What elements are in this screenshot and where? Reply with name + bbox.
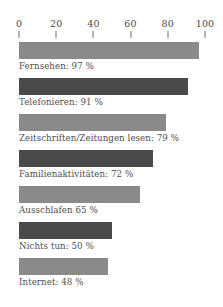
bar-label: Internet: 48 % [19,276,84,288]
bar-label: Fernsehen: 97 % [19,60,94,72]
x-axis-tick-label: 80 [162,18,175,29]
bar [19,258,108,275]
x-axis-tick-label: 40 [87,18,100,29]
bars-area: Fernsehen: 97 %Telefonieren: 91 %Zeitsch… [0,42,223,294]
x-axis-tick-mark [167,31,168,38]
bar-label: Zeitschriften/Zeitungen lesen: 79 % [19,132,179,144]
bar [19,78,188,95]
bar-label: Telefonieren: 91 % [19,96,103,108]
x-axis-tick-label: 20 [50,18,63,29]
bar-group: Zeitschriften/Zeitungen lesen: 79 % [0,114,223,150]
bar-label: Ausschlafen 65 % [19,204,98,216]
x-axis-tick-label: 0 [16,18,22,29]
bar-group: Fernsehen: 97 % [0,42,223,78]
bar-group: Nichts tun: 50 % [0,222,223,258]
x-axis-tick-mark [19,31,20,38]
x-axis-tick-mark [56,31,57,38]
x-axis-tick-mark [205,31,206,38]
bar-group: Telefonieren: 91 % [0,78,223,114]
x-axis-tick-mark [130,31,131,38]
x-axis-tick-label: 60 [124,18,137,29]
x-axis-tick-mark [93,31,94,38]
horizontal-bar-chart: 020406080100 Fernsehen: 97 %Telefonieren… [0,0,223,307]
bar [19,42,199,59]
bar [19,150,153,167]
bar-group: Ausschlafen 65 % [0,186,223,222]
x-axis-tick-label: 100 [196,18,215,29]
bar [19,222,112,239]
bar-label: Nichts tun: 50 % [19,240,94,252]
bar-label: Familienaktivitäten: 72 % [19,168,133,180]
bar-group: Internet: 48 % [0,258,223,294]
bar [19,186,140,203]
bar-group: Familienaktivitäten: 72 % [0,150,223,186]
bar [19,114,166,131]
x-axis: 020406080100 [0,18,223,40]
